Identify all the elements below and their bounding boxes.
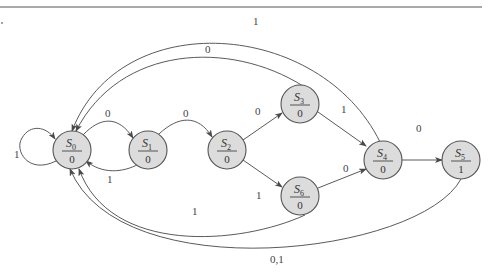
svg-text:0: 0 [224,153,230,165]
edge-s3-s4 [318,112,366,146]
label-s5-s0: 0,1 [270,253,284,265]
svg-text:1: 1 [458,163,464,175]
state-s4: S4 0 [364,141,402,179]
state-s6: S6 0 [281,177,319,215]
edge-s2-s6 [243,160,282,187]
edge-s2-s3 [243,113,282,140]
label-s3-s0: 0 [205,43,211,55]
edge-s0-s0 [20,128,56,165]
edge-s1-s2 [159,120,212,137]
label-s0-s1: 0 [105,107,111,119]
state-diagram: 1 0 1 0 0 1 1 0 0 1 0 1 0,1 S0 0 S1 0 S2… [0,0,495,277]
label-s1-s0: 1 [107,173,113,185]
label-s6-s0: 1 [192,205,198,217]
label-s4-s0: 1 [253,15,259,27]
svg-text:0: 0 [380,163,386,175]
edge-s4-s0 [72,43,380,142]
label-s3-s4: 1 [341,103,347,115]
label-s6-s4: 0 [343,162,349,174]
label-s2-s6: 1 [256,189,262,201]
label-s1-s2: 0 [183,107,189,119]
label-s4-s5: 0 [416,122,422,134]
state-s5: S5 1 [442,141,480,179]
edge-s1-s0 [86,161,139,171]
svg-text:0: 0 [69,153,75,165]
state-s1: S1 0 [129,131,167,169]
edge-s0-s1 [83,121,133,138]
label-s0-s0: 1 [14,148,20,160]
state-s3: S3 0 [281,85,319,123]
svg-text:0: 0 [145,153,151,165]
edge-s5-s0 [70,169,461,248]
label-s2-s3: 0 [255,105,261,117]
state-s2: S2 0 [208,131,246,169]
margin-dot [1,22,3,24]
edge-s6-s4 [318,169,366,188]
state-s0: S0 0 [53,131,91,169]
svg-text:0: 0 [297,107,303,119]
svg-text:0: 0 [297,199,303,211]
